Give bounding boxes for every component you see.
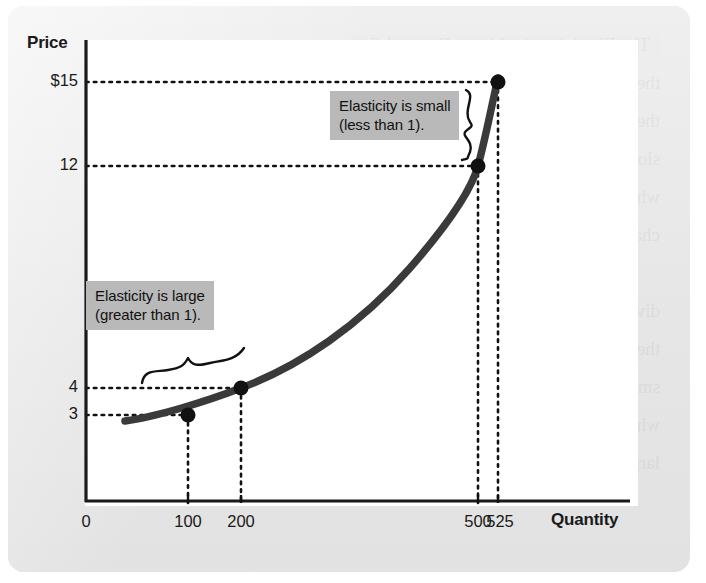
callout-elasticity-small: Elasticity is small (less than 1). [330,91,459,140]
x-tick-label-100: 100 [158,512,218,531]
brace-large-elasticity [142,348,244,383]
brace-small-elasticity [462,90,472,160]
y-tick-label-3: 3 [18,404,78,423]
y-tick-label-15: $15 [18,71,78,90]
data-point-200-4 [234,381,249,396]
x-tick-label-525: 525 [470,512,530,531]
y-axis-title: Price [27,33,68,53]
x-axis-title: Quantity [551,510,618,530]
callout-elasticity-large: Elasticity is large (greater than 1). [86,281,214,330]
y-tick-label-4: 4 [18,377,78,396]
data-point-500-12 [471,159,486,174]
data-point-100-3 [181,408,196,423]
x-tick-label-0: 0 [56,512,116,531]
y-tick-label-12: 12 [18,155,78,174]
x-tick-label-200: 200 [211,512,271,531]
data-point-525-15 [491,75,506,90]
